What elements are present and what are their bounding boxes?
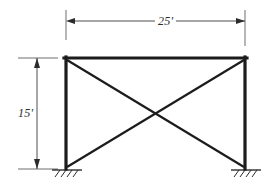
span-dimension-label: 25' xyxy=(155,14,176,29)
left-support xyxy=(52,170,82,177)
left-support-hatch xyxy=(55,170,60,177)
right-support-hatch xyxy=(252,170,257,177)
left-support-hatch xyxy=(73,170,78,177)
left-support-hatch xyxy=(67,170,72,177)
right-support-hatch xyxy=(246,170,251,177)
right-support xyxy=(231,170,261,177)
height-dimension-label: 15' xyxy=(16,104,35,123)
left-support-hatch xyxy=(61,170,66,177)
x-bracing-group xyxy=(67,60,244,167)
frame-diagram xyxy=(0,0,278,190)
right-support-hatch xyxy=(234,170,239,177)
height-arrowhead-bottom-icon xyxy=(34,159,40,169)
figure-canvas: 25' 15' xyxy=(0,0,278,190)
height-arrowhead-top-icon xyxy=(34,58,40,68)
span-arrowhead-left-icon xyxy=(66,18,75,24)
right-support-hatch xyxy=(240,170,245,177)
span-arrowhead-right-icon xyxy=(236,18,245,24)
